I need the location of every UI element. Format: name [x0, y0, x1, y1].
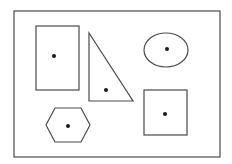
rectangle-outline	[36, 26, 79, 90]
outer-frame	[14, 11, 220, 157]
ellipse-shape	[144, 33, 188, 67]
hexagon-center-dot	[66, 124, 70, 128]
square-center-dot	[163, 112, 167, 116]
square-shape	[144, 90, 187, 135]
rectangle-center-dot	[52, 54, 56, 58]
triangle-outline	[89, 33, 133, 101]
right-triangle-shape	[89, 33, 133, 101]
hexagon-shape	[46, 108, 90, 142]
triangle-center-dot	[104, 88, 108, 92]
ellipse-center-dot	[165, 47, 169, 51]
shapes-diagram	[0, 0, 232, 164]
rectangle-shape	[36, 26, 79, 90]
